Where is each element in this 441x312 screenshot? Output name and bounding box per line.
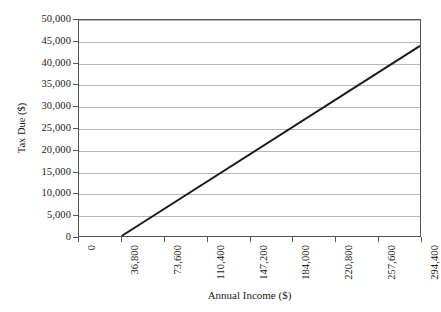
y-tick-label: 25,000 (42, 123, 71, 134)
y-tick-mark (73, 19, 78, 20)
x-tick-mark (421, 237, 422, 242)
y-tick-mark (73, 128, 78, 129)
x-tick-mark (378, 237, 379, 242)
x-tick-mark (207, 237, 208, 242)
y-tick-mark (73, 193, 78, 194)
y-tick-label: 10,000 (42, 188, 71, 199)
y-tick-label: 15,000 (42, 167, 71, 178)
x-axis-title: Annual Income ($) (78, 288, 421, 302)
x-tick-mark (292, 237, 293, 242)
y-tick-label: 0 (66, 232, 71, 243)
x-tick-mark (78, 237, 79, 242)
x-tick-mark (121, 237, 122, 242)
y-tick-mark (73, 63, 78, 64)
y-axis-title-wrapper: Tax Due ($) (8, 19, 24, 237)
y-tick-mark (73, 215, 78, 216)
y-tick-label: 40,000 (42, 58, 71, 69)
tax-due-line-chart: 05,00010,00015,00020,00025,00030,00035,0… (0, 0, 441, 312)
y-axis-title: Tax Due ($) (14, 19, 30, 237)
y-tick-label: 50,000 (42, 14, 71, 25)
y-tick-label: 20,000 (42, 145, 71, 156)
y-tick-mark (73, 172, 78, 173)
y-tick-mark (73, 84, 78, 85)
data-series-layer (79, 20, 420, 236)
y-tick-mark (73, 41, 78, 42)
series-line-tax-due (122, 46, 420, 236)
x-tick-label: 294,400 (428, 245, 441, 305)
x-tick-mark (164, 237, 165, 242)
plot-area (78, 19, 421, 237)
y-tick-mark (73, 150, 78, 151)
x-tick-mark (335, 237, 336, 242)
y-tick-label: 45,000 (42, 36, 71, 47)
y-tick-mark (73, 106, 78, 107)
x-tick-mark (250, 237, 251, 242)
y-tick-label: 35,000 (42, 79, 71, 90)
y-tick-label: 30,000 (42, 101, 71, 112)
y-tick-label: 5,000 (47, 210, 71, 221)
